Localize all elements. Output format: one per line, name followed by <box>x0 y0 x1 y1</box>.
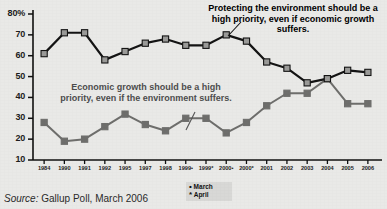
legend-label: April <box>192 191 208 198</box>
x-axis-tick-label: 2006 <box>354 165 382 171</box>
y-axis-tick-label: 50 <box>0 72 25 81</box>
source-note: Source: Gallup Poll, March 2006 <box>4 193 148 204</box>
y-axis-tick-label: 60 <box>0 51 25 60</box>
callout-environment: Protecting the environment should be a h… <box>203 3 383 35</box>
legend-label: March <box>192 183 213 190</box>
y-axis-tick-label: 10 <box>0 155 25 164</box>
y-axis-tick-label: 30 <box>0 113 25 122</box>
y-axis-tick-label: 80% <box>0 9 25 18</box>
legend: • March* April <box>186 182 232 201</box>
y-axis-tick-label: 70 <box>0 30 25 39</box>
callout-economy: Economic growth should be a high priorit… <box>57 82 235 103</box>
y-axis-tick-label: 20 <box>0 134 25 143</box>
series-environment <box>41 30 371 86</box>
chart-figure: Protecting the environment should be a h… <box>0 0 387 209</box>
source-text: Gallup Poll, March 2006 <box>38 193 148 204</box>
source-prefix: Source: <box>4 193 38 204</box>
y-axis-tick-label: 40 <box>0 92 25 101</box>
legend-item-march: • March <box>189 183 229 191</box>
legend-item-april: * April <box>189 191 229 199</box>
